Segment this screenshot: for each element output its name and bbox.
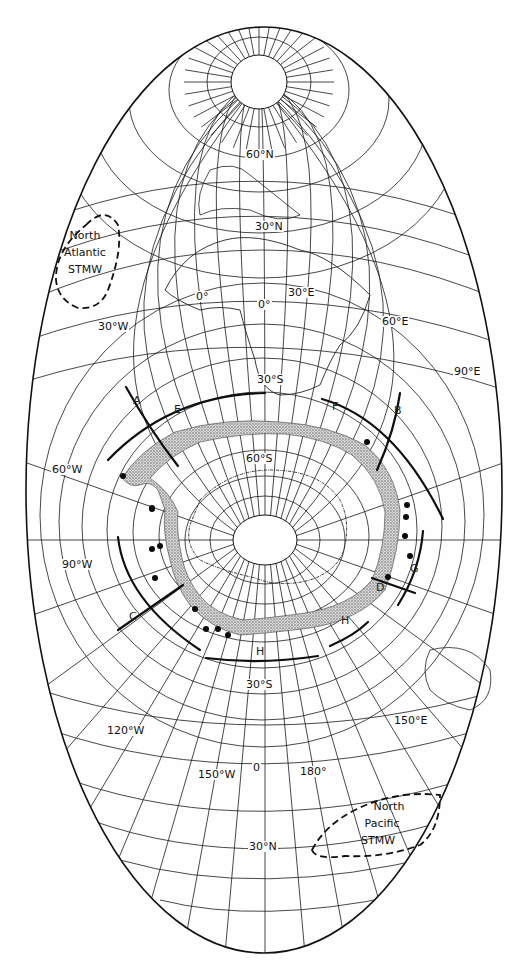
graticule-label: 150°W <box>197 769 236 780</box>
graticule-label: 60°N <box>245 149 275 160</box>
graticule-label: 0 <box>252 762 261 773</box>
graticule-label: 60°E <box>381 316 409 327</box>
station-dot <box>157 543 163 549</box>
graticule-label: 0° <box>257 299 272 310</box>
graticule-label: 120°W <box>106 725 145 736</box>
section-label: E <box>174 404 181 415</box>
station-dot <box>403 514 409 520</box>
section-label: B <box>394 405 402 416</box>
graticule-label: 30°N <box>254 221 284 232</box>
graticule-label: 0° <box>195 291 210 302</box>
section-label: H <box>341 615 349 626</box>
station-dot <box>225 632 231 638</box>
graticule-label: 90°E <box>453 366 481 377</box>
north-atlantic-stmw-label: North Atlantic STMW <box>58 227 112 278</box>
label-line: Pacific <box>338 815 418 832</box>
label-line: Atlantic <box>58 244 112 261</box>
south-pole-hole <box>233 515 297 565</box>
station-dot <box>149 546 155 552</box>
globe-outline <box>26 27 502 953</box>
station-dot <box>402 533 408 539</box>
graticule-label: 30°E <box>287 287 315 298</box>
station-dot <box>120 473 126 479</box>
station-dot <box>407 553 413 559</box>
station-dot <box>203 626 209 632</box>
station-dot <box>152 575 158 581</box>
graticule-label: 90°W <box>61 559 93 570</box>
section-label: G <box>410 563 419 574</box>
station-dot <box>192 606 198 612</box>
station-dot <box>404 502 410 508</box>
graticule-label: 60°S <box>245 453 273 464</box>
station-dot <box>385 574 391 580</box>
section-label: C <box>129 611 137 622</box>
north-pacific-stmw-label: North Pacific STMW <box>338 798 418 849</box>
graticule-label: 30°S <box>245 679 273 690</box>
section-label: A <box>133 395 141 406</box>
label-line: STMW <box>58 261 112 278</box>
station-dot <box>215 626 221 632</box>
station-dot <box>364 439 370 445</box>
graticule-label: 150°E <box>393 715 428 726</box>
graticule-label: 60°W <box>51 464 83 475</box>
section-label: F <box>332 401 338 412</box>
graticule-label: 180° <box>299 766 328 777</box>
section-label: D <box>376 582 384 593</box>
world-map-projection <box>0 0 525 977</box>
label-line: North <box>338 798 418 815</box>
north-pole-hole <box>231 55 287 109</box>
graticule-label: 30°N <box>248 841 278 852</box>
station-dot <box>149 505 155 511</box>
label-line: North <box>58 227 112 244</box>
graticule-label: 30°W <box>97 321 129 332</box>
label-line: STMW <box>338 832 418 849</box>
graticule-label: 30°S <box>256 374 284 385</box>
section-label: H <box>256 646 264 657</box>
